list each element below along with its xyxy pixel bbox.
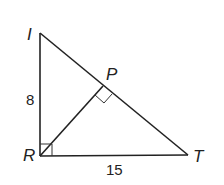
vertex-label-P: P — [106, 65, 118, 84]
segment-IT — [40, 33, 188, 155]
vertex-label-I: I — [27, 25, 32, 44]
right-angle-mark-P — [95, 94, 112, 103]
vertex-label-R: R — [23, 146, 35, 165]
segment-RT — [40, 155, 188, 156]
diagram-canvas: I R T P 8 15 — [0, 0, 224, 185]
side-label-IR: 8 — [26, 91, 34, 108]
triangle-diagram: I R T P 8 15 — [0, 0, 224, 185]
side-label-RT: 15 — [106, 161, 123, 178]
vertex-label-T: T — [193, 147, 205, 166]
segment-RP — [40, 86, 103, 156]
